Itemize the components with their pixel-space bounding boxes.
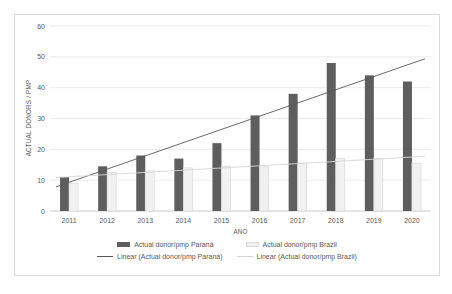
bar-brazil-2012: [107, 172, 116, 211]
bar-parana-2018: [327, 63, 336, 211]
bar-parana-2019: [365, 75, 374, 211]
bar-parana-2013: [136, 156, 145, 212]
x-axis-title: ANO: [233, 228, 247, 235]
x-tick-label-2012: 2012: [99, 217, 115, 224]
chart-legend: Actual donor/pmp Paraná Actual donor/pmp…: [15, 239, 439, 275]
legend-item-brazil-bar: Actual donor/pmp Brazil: [246, 241, 337, 248]
bar-brazil-2016: [260, 166, 269, 211]
x-tick-label-2014: 2014: [176, 217, 192, 224]
brazil-bar-swatch-icon: [246, 242, 259, 247]
bar-brazil-2017: [298, 163, 307, 211]
y-tick-label-40: 40: [37, 84, 45, 91]
bar-parana-2016: [251, 115, 260, 211]
legend-label-brazil-bar: Actual donor/pmp Brazil: [263, 241, 337, 248]
y-axis-title: ACTUAL DONORS / PMP: [25, 80, 32, 157]
legend-item-parana-bar: Actual donor/pmp Paraná: [117, 241, 213, 248]
parana-trendline-swatch-icon: [97, 256, 113, 257]
bar-parana-2020: [403, 82, 412, 212]
bar-brazil-2014: [183, 168, 192, 211]
x-tick-label-2020: 2020: [404, 217, 420, 224]
x-tick-label-2016: 2016: [252, 217, 268, 224]
x-tick-label-2019: 2019: [366, 217, 382, 224]
y-tick-label-0: 0: [41, 208, 45, 215]
bar-brazil-2019: [374, 159, 383, 211]
bar-parana-2014: [174, 159, 183, 211]
legend-label-brazil-trend: Linear (Actual donor/pmp Brazil): [257, 253, 357, 260]
bar-brazil-2020: [412, 163, 421, 211]
bar-brazil-2013: [145, 171, 154, 211]
y-tick-label-10: 10: [37, 177, 45, 184]
bar-parana-2015: [212, 143, 221, 211]
brazil-trendline-swatch-icon: [237, 256, 253, 257]
y-tick-label-50: 50: [37, 53, 45, 60]
bar-parana-2017: [289, 94, 298, 211]
y-tick-label-20: 20: [37, 146, 45, 153]
x-tick-label-2017: 2017: [290, 217, 306, 224]
x-tick-label-2018: 2018: [328, 217, 344, 224]
x-tick-label-2011: 2011: [62, 217, 77, 224]
legend-row-bars: Actual donor/pmp Paraná Actual donor/pmp…: [117, 241, 337, 248]
bar-brazil-2011: [69, 183, 78, 211]
bar-brazil-2018: [336, 159, 345, 211]
x-tick-label-2013: 2013: [137, 217, 153, 224]
bar-parana-2011: [60, 177, 69, 211]
legend-item-parana-trend: Linear (Actual donor/pmp Paraná): [97, 253, 222, 260]
legend-row-lines: Linear (Actual donor/pmp Paraná) Linear …: [97, 253, 357, 260]
chart-frame: 0102030405060ACTUAL DONORS / PMP20112012…: [14, 14, 440, 276]
x-tick-label-2015: 2015: [214, 217, 230, 224]
parana-bar-swatch-icon: [117, 242, 130, 247]
legend-item-brazil-trend: Linear (Actual donor/pmp Brazil): [237, 253, 357, 260]
bar-brazil-2015: [221, 166, 230, 211]
y-tick-label-30: 30: [37, 115, 45, 122]
legend-label-parana-bar: Actual donor/pmp Paraná: [134, 241, 213, 248]
bar-parana-2012: [98, 166, 107, 211]
legend-label-parana-trend: Linear (Actual donor/pmp Paraná): [117, 253, 222, 260]
chart-plot-area: 0102030405060ACTUAL DONORS / PMP20112012…: [15, 15, 439, 239]
y-tick-label-60: 60: [37, 23, 45, 30]
